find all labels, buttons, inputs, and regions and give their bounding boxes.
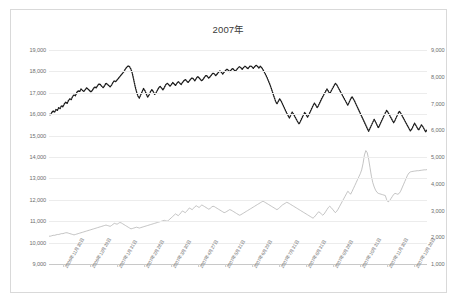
y-axis-left-tick: 17,000 — [29, 90, 46, 96]
gridline — [49, 157, 427, 158]
y-axis-right-tick: 9,000 — [431, 47, 445, 53]
gridline — [49, 178, 427, 179]
gridline — [49, 136, 427, 137]
lower-series — [49, 151, 427, 237]
y-axis-right-tick: 7,000 — [431, 101, 445, 107]
plot-area: 9,00010,00011,00012,00013,00014,00015,00… — [49, 50, 427, 264]
gridline — [49, 93, 427, 94]
y-axis-right-tick: 5,000 — [431, 154, 445, 160]
y-axis-left-tick: 11,000 — [30, 218, 46, 224]
chart-frame: 2007年 9,00010,00011,00012,00013,00014,00… — [10, 9, 447, 293]
gridline — [49, 71, 427, 72]
gridline — [49, 200, 427, 201]
y-axis-right-tick: 8,000 — [431, 74, 445, 80]
y-axis-right-tick: 6,000 — [431, 127, 445, 133]
y-axis-left-tick: 18,000 — [29, 68, 46, 74]
y-axis-left-tick: 10,000 — [29, 240, 46, 246]
y-axis-right-tick: 3,000 — [431, 208, 445, 214]
upper-series — [49, 65, 427, 131]
y-axis-left-tick: 12,000 — [29, 197, 46, 203]
y-axis-left-tick: 19,000 — [29, 47, 46, 53]
x-axis-labels: 2006年11月30日2006年12月29日2007年1月31日2007年2月2… — [49, 264, 427, 303]
gridline — [49, 221, 427, 222]
y-axis-left-tick: 9,000 — [33, 261, 47, 267]
gridline — [49, 50, 427, 51]
chart-title: 2007年 — [11, 22, 446, 36]
y-axis-right-tick: 4,000 — [431, 181, 445, 187]
y-axis-right-tick: 1,000 — [431, 261, 445, 267]
y-axis-left-tick: 16,000 — [29, 111, 46, 117]
y-axis-left-tick: 13,000 — [29, 175, 46, 181]
gridline — [49, 114, 427, 115]
y-axis-left-tick: 14,000 — [29, 154, 46, 160]
y-axis-left-tick: 15,000 — [29, 133, 46, 139]
